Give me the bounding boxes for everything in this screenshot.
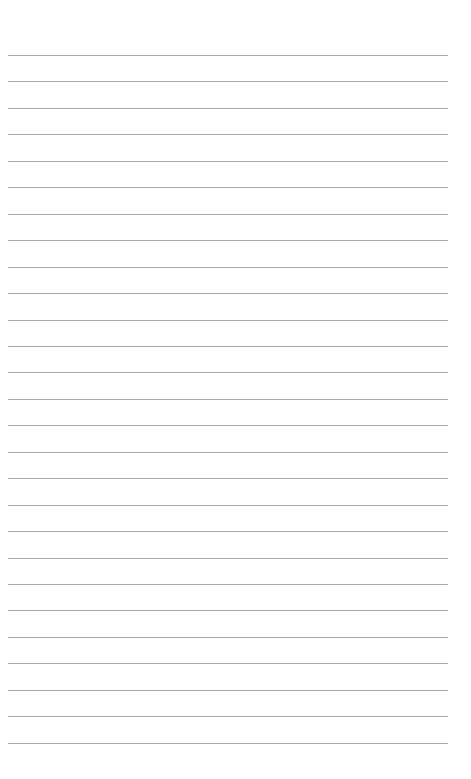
ruled-line xyxy=(8,214,448,215)
ruled-line xyxy=(8,161,448,162)
ruled-line xyxy=(8,240,448,241)
ruled-line xyxy=(8,425,448,426)
ruled-line xyxy=(8,558,448,559)
ruled-line xyxy=(8,584,448,585)
ruled-line xyxy=(8,610,448,611)
ruled-line xyxy=(8,531,448,532)
ruled-line xyxy=(8,743,448,744)
ruled-line xyxy=(8,690,448,691)
ruled-line xyxy=(8,346,448,347)
ruled-line xyxy=(8,320,448,321)
ruled-line xyxy=(8,81,448,82)
ruled-line xyxy=(8,663,448,664)
ruled-line xyxy=(8,505,448,506)
ruled-line xyxy=(8,293,448,294)
ruled-line xyxy=(8,267,448,268)
ruled-line xyxy=(8,187,448,188)
ruled-line xyxy=(8,55,448,56)
ruled-line xyxy=(8,372,448,373)
ruled-line xyxy=(8,452,448,453)
ruled-line xyxy=(8,478,448,479)
ruled-line xyxy=(8,399,448,400)
ruled-line xyxy=(8,134,448,135)
ruled-line xyxy=(8,716,448,717)
ruled-line xyxy=(8,637,448,638)
ruled-line xyxy=(8,108,448,109)
